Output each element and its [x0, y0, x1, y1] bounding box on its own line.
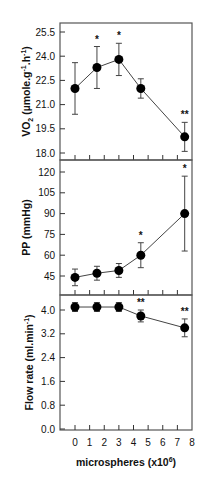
y-axis-title: PP (mmHg)	[20, 199, 32, 255]
y-tick-label: 3.2	[41, 328, 55, 339]
y-tick-label: 90	[44, 208, 56, 219]
significance-marker: *	[95, 34, 99, 45]
x-tick-label: 0	[72, 437, 78, 448]
y-tick-label: 105	[38, 187, 55, 198]
y-tick-label: 24.0	[36, 51, 56, 62]
significance-marker: **	[181, 109, 189, 120]
y-tick-label: 120	[38, 167, 55, 178]
data-point	[71, 84, 80, 93]
significance-marker: *	[117, 30, 121, 41]
plot-frame	[60, 160, 192, 295]
data-point	[114, 303, 123, 312]
y-tick-label: 0.0	[41, 424, 55, 435]
panel-top: 18.019.521.022.524.025.5VO2 (µmole.g-1.h…	[20, 23, 192, 160]
x-tick-label: 8	[189, 437, 195, 448]
x-tick-label: 1	[87, 437, 93, 448]
data-point	[180, 209, 189, 218]
y-tick-label: 18.0	[36, 148, 56, 159]
x-tick-label: 5	[145, 437, 151, 448]
plot-frame	[60, 295, 192, 430]
data-point	[114, 55, 123, 64]
x-tick-label: 7	[175, 437, 181, 448]
panel-middle: 45607590105120PP (mmHg)**	[20, 160, 192, 295]
y-tick-label: 45	[44, 271, 56, 282]
y-tick-label: 1.6	[41, 376, 55, 387]
significance-marker: *	[139, 230, 143, 241]
y-tick-label: 22.5	[36, 75, 56, 86]
series-line	[75, 59, 185, 136]
data-point	[114, 266, 123, 275]
chart-panels: 18.019.521.022.524.025.5VO2 (µmole.g-1.h…	[20, 23, 195, 448]
y-axis-title: VO2 (µmole.g-1.h-1)	[20, 46, 34, 137]
data-point	[180, 323, 189, 332]
y-tick-label: 75	[44, 229, 56, 240]
x-axis-title: microspheres (x106)	[76, 456, 176, 468]
series-line	[75, 214, 185, 278]
data-point	[92, 303, 101, 312]
data-point	[71, 303, 80, 312]
y-axis-title: Flow rate (ml.min-1)	[23, 314, 35, 410]
significance-marker: *	[183, 163, 187, 174]
significance-marker: **	[137, 297, 145, 308]
data-point	[136, 311, 145, 320]
x-tick-label: 3	[116, 437, 122, 448]
x-tick-label: 6	[160, 437, 166, 448]
data-point	[180, 132, 189, 141]
data-point	[92, 269, 101, 278]
data-point	[136, 251, 145, 260]
y-tick-label: 25.5	[36, 27, 56, 38]
y-tick-label: 0.8	[41, 400, 55, 411]
data-point	[71, 273, 80, 282]
x-tick-label: 2	[101, 437, 107, 448]
y-tick-label: 19.5	[36, 123, 56, 134]
plot-frame	[60, 23, 192, 160]
y-tick-label: 2.4	[41, 352, 55, 363]
data-point	[92, 63, 101, 72]
series-line	[75, 307, 185, 328]
significance-marker: **	[181, 306, 189, 317]
y-tick-label: 21.0	[36, 99, 56, 110]
y-tick-label: 4.0	[41, 305, 55, 316]
panel-bottom: 0.00.81.62.43.24.0Flow rate (ml.min-1)**…	[23, 295, 195, 448]
chart: 18.019.521.022.524.025.5VO2 (µmole.g-1.h…	[0, 0, 206, 486]
x-tick-label: 4	[131, 437, 137, 448]
y-tick-label: 60	[44, 250, 56, 261]
data-point	[136, 84, 145, 93]
